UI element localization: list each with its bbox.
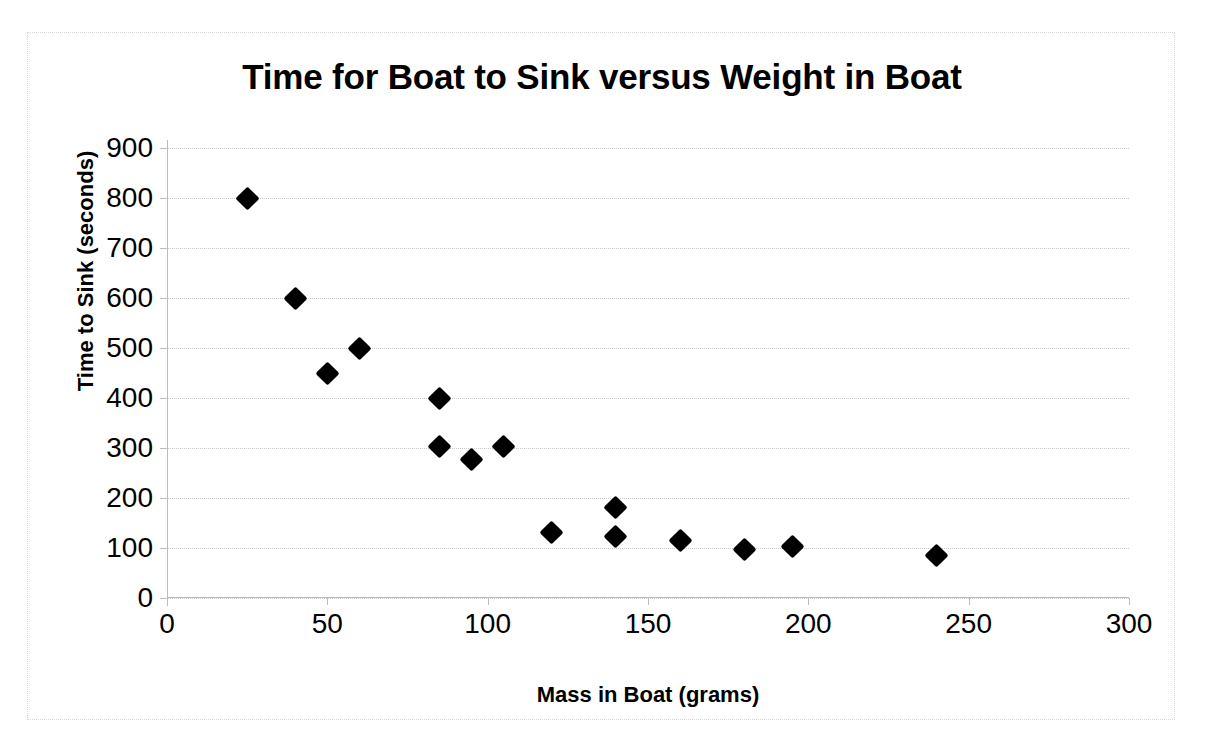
gridline-y xyxy=(167,198,1129,199)
data-point xyxy=(347,336,371,360)
y-axis-tick xyxy=(160,498,167,499)
chart-frame: Time for Boat to Sink versus Weight in B… xyxy=(27,32,1175,720)
y-axis-tick-label: 400 xyxy=(106,382,153,414)
x-axis-tick-label: 150 xyxy=(625,608,672,640)
data-point xyxy=(283,286,307,310)
gridline-y xyxy=(167,248,1129,249)
chart-title: Time for Boat to Sink versus Weight in B… xyxy=(28,57,1176,97)
x-axis-tick-label: 50 xyxy=(312,608,343,640)
y-axis-line xyxy=(167,140,168,606)
y-axis-tick xyxy=(160,148,167,149)
y-axis-tick xyxy=(160,598,167,599)
data-point xyxy=(732,537,756,561)
x-axis-tick-label: 100 xyxy=(464,608,511,640)
y-axis-tick-label: 600 xyxy=(106,282,153,314)
y-axis-tick-label: 100 xyxy=(106,532,153,564)
y-axis-title: Time to Sink (seconds) xyxy=(73,151,99,391)
y-axis-tick-label: 700 xyxy=(106,232,153,264)
y-axis-tick-label: 800 xyxy=(106,182,153,214)
y-axis-tick-label: 900 xyxy=(106,132,153,164)
x-axis-tick xyxy=(969,598,970,605)
x-axis-title: Mass in Boat (grams) xyxy=(167,682,1129,708)
gridline-y xyxy=(167,498,1129,499)
x-axis-tick-label: 200 xyxy=(785,608,832,640)
data-point xyxy=(460,447,484,471)
data-point xyxy=(235,186,259,210)
data-point xyxy=(540,520,564,544)
y-axis-tick xyxy=(160,548,167,549)
y-axis-tick-label: 300 xyxy=(106,432,153,464)
gridline-y xyxy=(167,148,1129,149)
x-axis-tick-label: 250 xyxy=(945,608,992,640)
y-axis-tick xyxy=(160,348,167,349)
y-axis-tick xyxy=(160,248,167,249)
x-axis-tick xyxy=(488,598,489,605)
x-axis-tick xyxy=(327,598,328,605)
gridline-y xyxy=(167,548,1129,549)
gridline-y xyxy=(167,448,1129,449)
x-axis-tick xyxy=(808,598,809,605)
x-axis-tick-label: 300 xyxy=(1106,608,1153,640)
data-point xyxy=(315,361,339,385)
data-point xyxy=(604,524,628,548)
data-point xyxy=(780,534,804,558)
y-axis-tick xyxy=(160,298,167,299)
x-axis-tick xyxy=(648,598,649,605)
y-axis-tick xyxy=(160,198,167,199)
data-point xyxy=(428,386,452,410)
y-axis-tick xyxy=(160,448,167,449)
y-axis-tick-label: 200 xyxy=(106,482,153,514)
y-axis-tick-label: 0 xyxy=(137,582,153,614)
y-axis-tick-label: 500 xyxy=(106,332,153,364)
gridline-y xyxy=(167,298,1129,299)
x-axis-line xyxy=(167,597,1129,598)
gridline-y xyxy=(167,398,1129,399)
plot-area: 0100200300400500600700800900 05010015020… xyxy=(167,148,1129,598)
data-point xyxy=(428,434,452,458)
x-axis-tick xyxy=(1129,598,1130,605)
y-axis-tick xyxy=(160,398,167,399)
x-axis-tick-label: 0 xyxy=(159,608,175,640)
gridline-y xyxy=(167,348,1129,349)
data-point xyxy=(492,434,516,458)
